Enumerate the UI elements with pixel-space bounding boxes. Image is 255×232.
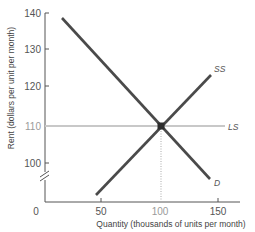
x-axis-title: Quantity (thousands of units per month) [96,219,245,229]
demand-curve: D [62,18,220,188]
y-tick-100: 100 [24,158,41,169]
long-run-supply-curve: LS [45,122,239,132]
d-label: D [214,178,220,188]
ls-label: LS [228,122,239,132]
x-tick-150: 150 [210,206,227,217]
y-tick-120: 120 [24,81,41,92]
y-tick-130: 130 [24,44,41,55]
axis-break-icon [40,171,49,181]
x-tick-50: 50 [95,206,107,217]
x-tick-0: 0 [33,206,39,217]
y-tick-140: 140 [24,8,41,19]
y-axis: 140 130 120 110 100 Rent (dollars per un… [6,8,49,202]
rental-market-chart: 140 130 120 110 100 Rent (dollars per un… [0,0,255,232]
equilibrium-point [158,123,165,130]
ss-label: SS [214,64,226,74]
x-axis: 0 50 100 150 Quantity (thousands of unit… [33,198,246,229]
y-axis-title: Rent (dollars per unit per month) [6,27,16,150]
y-tick-110: 110 [25,121,41,132]
x-tick-100: 100 [152,206,169,217]
